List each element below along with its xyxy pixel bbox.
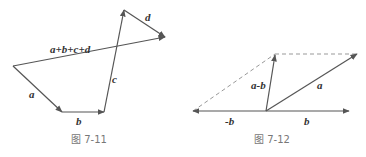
label-c: c — [112, 73, 117, 85]
label-b: b — [304, 115, 310, 127]
figure-7-12 — [193, 54, 357, 111]
caption-7-12: 图 7-12 — [254, 134, 290, 145]
vector-a — [13, 66, 62, 112]
vector-a — [266, 54, 357, 111]
label-a: a — [317, 79, 323, 91]
label-a-minus-b: a-b — [251, 79, 266, 91]
label-b: b — [76, 115, 82, 127]
label-neg-b: -b — [225, 115, 235, 127]
vector-c — [104, 10, 124, 112]
figure-7-11 — [13, 10, 165, 112]
caption-7-11: 图 7-11 — [71, 134, 107, 145]
vector-diagrams: a+b+c+d a b c d 图 7-11 a-b a -b b 图 7-12 — [0, 0, 366, 157]
label-sum: a+b+c+d — [50, 43, 91, 55]
label-d: d — [145, 11, 151, 23]
vector-a-minus-b — [266, 55, 275, 111]
label-a: a — [29, 88, 35, 100]
